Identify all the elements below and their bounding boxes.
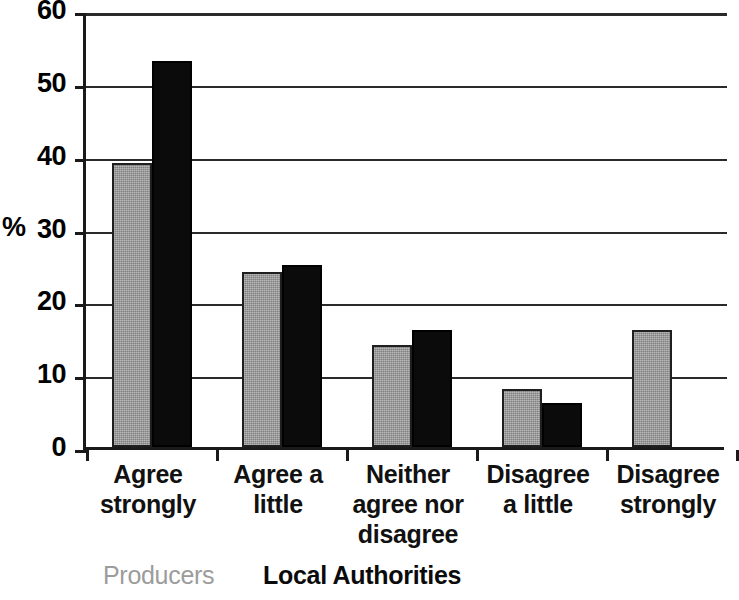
y-axis-tick [75,450,86,453]
y-axis-tick [75,304,86,307]
bar-producers [242,272,282,447]
y-axis-tick [75,377,86,380]
bar-producers [372,345,412,447]
x-axis-label: Agree alittle [213,459,343,519]
y-axis-tick [75,159,86,162]
x-axis-label-line: strongly [83,489,213,519]
legend: Producers Local Authorities [0,561,724,599]
bar-local-authorities [282,265,322,447]
legend-item-producers: Producers [103,561,214,590]
x-axis-label-line: agree nor [343,489,473,519]
x-axis-label-line: a little [473,489,603,519]
y-axis-tick [75,232,86,235]
x-axis-label: Disagreea little [473,459,603,519]
plot-area [83,13,724,450]
bar-producers [112,163,152,447]
y-axis-tick-label: 0 [6,432,66,463]
x-axis-label-line: Disagree [473,459,603,489]
x-axis-label: Agreestrongly [83,459,213,519]
x-axis-label-line: strongly [603,489,733,519]
y-axis-tick-label: 40 [6,141,66,172]
x-axis-label-line: disagree [343,519,473,549]
y-axis-tick [75,13,86,16]
x-axis-label: Disagreestrongly [603,459,733,519]
y-axis-tick-label: 20 [6,286,66,317]
bar-local-authorities [152,61,192,447]
y-axis-tick [75,86,86,89]
bar-local-authorities [542,403,582,447]
bar-local-authorities [412,330,452,447]
x-axis-label: Neitheragree nordisagree [343,459,473,549]
bar-producers [632,330,672,447]
x-axis-label-line: Neither [343,459,473,489]
y-axis-tick-label: 30 [6,214,66,245]
y-axis-tick-label: 50 [6,68,66,99]
gridline [86,13,727,16]
y-axis-tick-label: 60 [6,0,66,26]
x-axis-label-line: Agree a [213,459,343,489]
y-axis-tick-label: 10 [6,359,66,390]
x-axis-label-line: Agree [83,459,213,489]
bar-producers [502,389,542,447]
legend-item-local-authorities: Local Authorities [263,561,461,590]
x-axis-label-line: little [213,489,343,519]
x-axis-label-line: Disagree [603,459,733,489]
